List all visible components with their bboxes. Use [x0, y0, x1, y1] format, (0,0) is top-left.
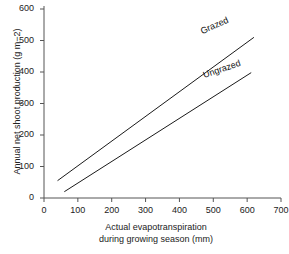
axis-lines: [44, 6, 281, 198]
y-axis-tick-label: 0: [8, 192, 34, 202]
x-axis-title-line2: during growing season (mm): [56, 234, 256, 246]
x-axis-ticks: [44, 198, 281, 202]
x-axis-tick-label: 700: [267, 205, 289, 215]
x-axis-tick-label: 0: [30, 205, 58, 215]
x-axis-title: Actual evapotranspiration during growing…: [56, 222, 256, 245]
series-line-grazed: [58, 37, 254, 180]
x-axis-tick-label: 100: [64, 205, 92, 215]
series-line-ungrazed: [64, 73, 251, 192]
x-axis-tick-label: 500: [199, 205, 227, 215]
x-axis-title-line1: Actual evapotranspiration: [56, 222, 256, 234]
y-axis-ticks: [40, 9, 44, 198]
chart-plot-area: [0, 0, 289, 254]
x-axis-tick-label: 600: [233, 205, 261, 215]
x-axis-tick-label: 300: [132, 205, 160, 215]
x-axis-tick-label: 200: [98, 205, 126, 215]
x-axis-tick-label: 400: [165, 205, 193, 215]
series-lines: [58, 37, 254, 191]
y-axis-title: Annual net shoot production (g m−2): [12, 22, 23, 182]
chart-figure: 0100200300400500600 01002003004005006007…: [0, 0, 289, 254]
y-axis-tick-label: 600: [8, 3, 34, 13]
